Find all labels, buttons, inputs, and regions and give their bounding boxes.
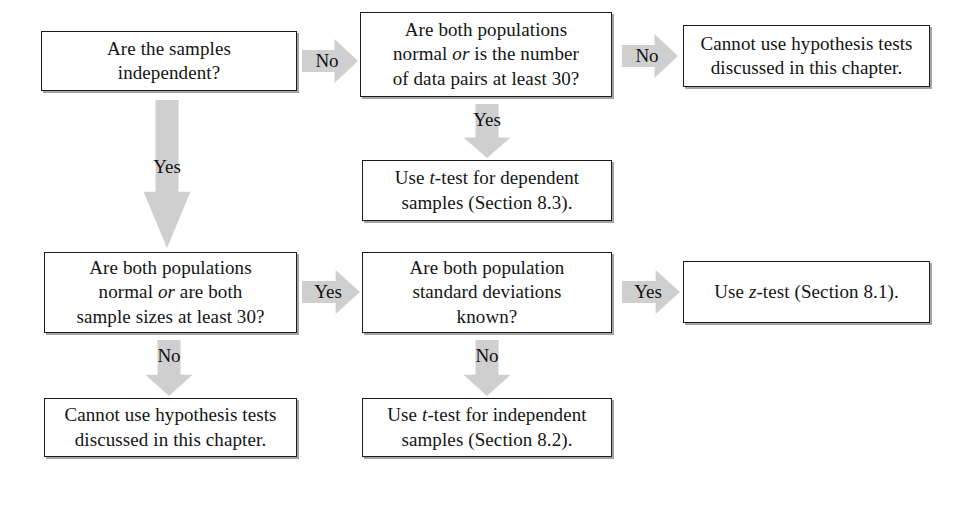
node-line: independent? [118, 62, 221, 83]
arrow-independent-yes: Yes [143, 100, 191, 248]
node-line-b: -test (Section 8.1). [756, 281, 898, 302]
node-line: Cannot use hypothesis tests [64, 404, 276, 425]
arrow-label: No [145, 345, 193, 367]
node-are-sigmas-known: Are both population standard deviations … [362, 252, 612, 333]
node-line-b: is the number [469, 43, 579, 64]
node-use-t-test-independent: Use t-test for independent samples (Sect… [362, 398, 612, 457]
arrow-indep-normal-yes: Yes [302, 269, 360, 315]
node-use-z-test: Use z-test (Section 8.1). [683, 261, 930, 323]
node-use-t-test-dependent: Use t-test for dependent samples (Sectio… [362, 160, 612, 221]
node-line: known? [457, 306, 518, 327]
node-line-b: -test for dependent [435, 167, 579, 188]
flowchart-canvas: Are the samples independent? No Are both… [0, 0, 973, 505]
node-line-em: or [158, 281, 175, 302]
arrow-independent-no: No [302, 38, 358, 84]
node-line: sample sizes at least 30? [76, 306, 264, 327]
node-cannot-use-hypothesis-tests-bottom: Cannot use hypothesis tests discussed in… [44, 398, 297, 457]
node-line-a: Use [714, 281, 749, 302]
node-line-a: normal [99, 281, 158, 302]
arrow-label: Yes [143, 156, 191, 178]
node-line-a: normal [393, 43, 452, 64]
node-are-samples-independent: Are the samples independent? [41, 31, 297, 91]
node-line-em: or [452, 43, 469, 64]
node-line: discussed in this chapter. [711, 57, 903, 78]
node-are-both-populations-normal-pairs: Are both populations normal or is the nu… [360, 12, 612, 97]
node-line: samples (Section 8.2). [401, 429, 572, 450]
node-line: Are both populations [89, 257, 251, 278]
node-are-both-populations-normal-sizes: Are both populations normal or are both … [44, 252, 297, 333]
node-line: samples (Section 8.3). [401, 192, 572, 213]
node-line: of data pairs at least 30? [393, 68, 580, 89]
arrow-sigma-known-yes: Yes [622, 269, 680, 315]
arrow-indep-normal-no: No [145, 340, 193, 396]
arrow-paired-normal-no: No [622, 33, 678, 79]
node-line: Cannot use hypothesis tests [700, 33, 912, 54]
node-line: Are the samples [107, 38, 231, 59]
node-line-a: Use [387, 404, 422, 425]
node-line: standard deviations [412, 281, 561, 302]
node-cannot-use-hypothesis-tests-top: Cannot use hypothesis tests discussed in… [683, 25, 930, 87]
arrow-label: Yes [463, 109, 511, 131]
node-line: Are both population [410, 257, 565, 278]
arrow-paired-normal-yes: Yes [463, 104, 511, 158]
node-line-b: are both [175, 281, 242, 302]
node-line-a: Use [395, 167, 430, 188]
node-line: discussed in this chapter. [75, 429, 267, 450]
arrow-label: No [463, 345, 511, 367]
node-line: Are both populations [405, 19, 567, 40]
node-line-b: -test for independent [427, 404, 586, 425]
arrow-label: No [619, 45, 693, 67]
arrow-sigma-known-no: No [463, 340, 511, 396]
